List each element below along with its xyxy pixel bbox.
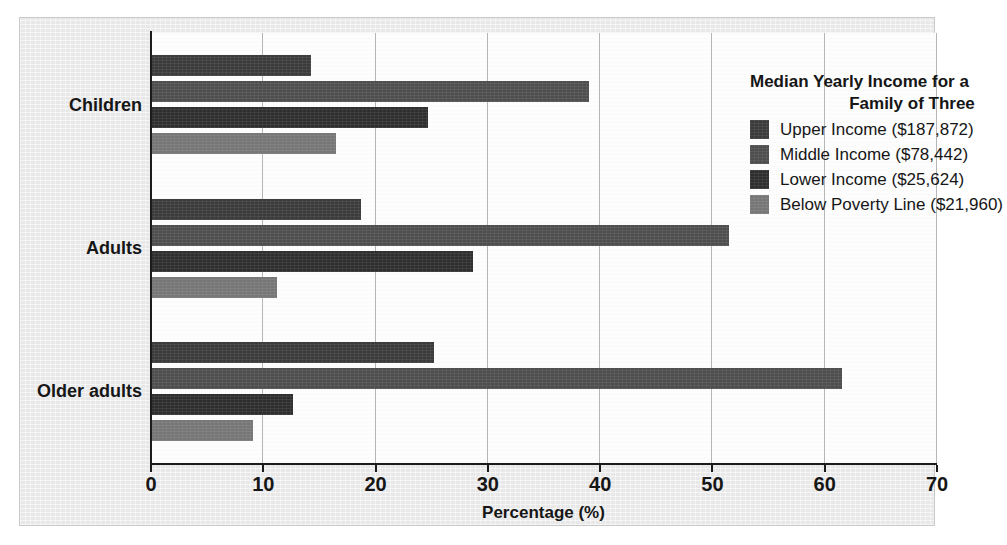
x-tick-label-50: 50	[701, 473, 723, 496]
legend-entry: Lower Income ($25,624)	[746, 170, 1007, 190]
bar	[150, 199, 361, 220]
legend-swatch-texture	[750, 145, 769, 164]
bar-texture	[150, 342, 434, 363]
x-tick-mark-50	[711, 465, 713, 472]
legend-title-line-1: Median Yearly Income for a	[746, 71, 1007, 93]
x-tick-label-20: 20	[364, 473, 386, 496]
legend-swatch	[750, 170, 769, 189]
x-tick-label-0: 0	[145, 473, 156, 496]
category-axis-labels: ChildrenAdultsOlder adults	[20, 33, 142, 463]
x-tick-mark-70	[936, 465, 938, 472]
bar	[150, 342, 434, 363]
category-label-older-adults: Older adults	[37, 381, 142, 402]
legend-swatch	[750, 145, 769, 164]
x-tick-label-10: 10	[252, 473, 274, 496]
bar	[150, 394, 293, 415]
legend-label: Upper Income ($187,872)	[780, 120, 974, 140]
gridline-40	[599, 33, 600, 463]
bar	[150, 81, 589, 102]
x-axis-spine	[150, 463, 937, 465]
bar-texture	[150, 394, 293, 415]
legend-swatch	[750, 195, 769, 214]
bar	[150, 420, 253, 441]
gridline-50	[711, 33, 712, 463]
bar	[150, 133, 336, 154]
bar	[150, 277, 277, 298]
chart-legend: Median Yearly Income for a Family of Thr…	[746, 71, 1007, 215]
legend-label: Lower Income ($25,624)	[780, 170, 964, 190]
bar-texture	[150, 251, 473, 272]
category-label-adults: Adults	[86, 238, 142, 259]
bar-texture	[150, 420, 253, 441]
legend-title-line-2: Family of Three	[746, 93, 1007, 115]
legend-entry: Below Poverty Line ($21,960)	[746, 195, 1007, 215]
legend-label: Middle Income ($78,442)	[780, 145, 968, 165]
bar-texture	[150, 107, 428, 128]
bar	[150, 368, 842, 389]
legend-swatch	[750, 120, 769, 139]
bar	[150, 251, 473, 272]
bar-texture	[150, 81, 589, 102]
legend-swatch-texture	[750, 195, 769, 214]
legend-swatch-texture	[750, 120, 769, 139]
bar-texture	[150, 55, 311, 76]
x-tick-mark-40	[599, 465, 601, 472]
bar-texture	[150, 199, 361, 220]
x-tick-label-70: 70	[926, 473, 948, 496]
legend-entry: Middle Income ($78,442)	[746, 145, 1007, 165]
bar-texture	[150, 277, 277, 298]
legend-entry: Upper Income ($187,872)	[746, 120, 1007, 140]
legend-label: Below Poverty Line ($21,960)	[780, 195, 1003, 215]
x-tick-label-60: 60	[814, 473, 836, 496]
x-tick-mark-20	[375, 465, 377, 472]
x-tick-mark-30	[487, 465, 489, 472]
plot-area: Median Yearly Income for a Family of Thr…	[150, 33, 936, 463]
legend-swatch-texture	[750, 170, 769, 189]
x-tick-mark-0	[150, 465, 152, 472]
bar-texture	[150, 368, 842, 389]
x-tick-mark-60	[824, 465, 826, 472]
x-tick-label-30: 30	[477, 473, 499, 496]
x-axis-title: Percentage (%)	[150, 503, 937, 523]
x-tick-mark-10	[262, 465, 264, 472]
legend-entries: Upper Income ($187,872)Middle Income ($7…	[746, 120, 1007, 215]
y-axis-spine	[150, 31, 152, 465]
category-label-children: Children	[69, 94, 142, 115]
x-tick-label-40: 40	[589, 473, 611, 496]
bar-texture	[150, 225, 729, 246]
bar	[150, 107, 428, 128]
bar	[150, 225, 729, 246]
bar-texture	[150, 133, 336, 154]
bar	[150, 55, 311, 76]
